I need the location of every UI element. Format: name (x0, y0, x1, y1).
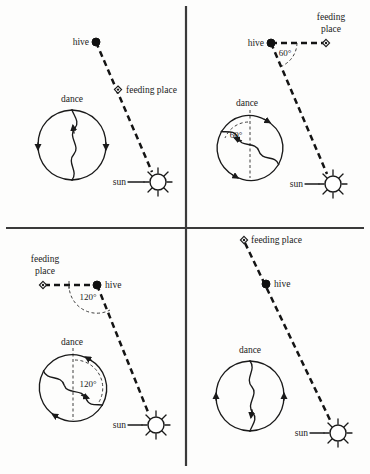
panel-bottom-right: feeding place hive sun (216, 235, 352, 447)
route-hive-to-sun-bottom-left (97, 285, 148, 412)
hive-marker (93, 281, 101, 289)
hive-marker (262, 280, 270, 288)
feeding-place-label: feeding place (126, 85, 177, 95)
hive-label: hive (73, 37, 89, 47)
angle-label-bottom-left: 120° (79, 292, 97, 302)
route-line-bottom-right (245, 243, 331, 422)
dance-label: dance (236, 98, 258, 108)
feeding-place-marker (114, 86, 121, 93)
feeding-place-label-line1: feeding (31, 254, 60, 264)
feeding-place-marker (39, 281, 46, 288)
feeding-place-label-line2: place (35, 266, 55, 276)
sun-label: sun (113, 420, 126, 430)
figure-canvas: hive feeding place sun (0, 0, 370, 474)
dance-figure-bottom-left: 120° (27, 342, 119, 433)
route-line-top-left (96, 42, 152, 172)
feeding-place-label-line1: feeding (317, 12, 346, 22)
sun-label: sun (290, 179, 303, 189)
dance-label: dance (61, 337, 83, 347)
feeding-place-label-line2: place (321, 24, 341, 34)
hive-label: hive (248, 38, 264, 48)
hive-label: hive (105, 280, 121, 290)
feeding-place-marker (322, 39, 329, 46)
dance-label: dance (239, 345, 261, 355)
hive-label: hive (274, 279, 290, 289)
dance-figure-top-right: 60° (205, 104, 294, 192)
angle-label-top-right: 60° (279, 48, 292, 58)
panel-dividers (6, 6, 364, 466)
panel-top-right: 60° hive feeding place (205, 12, 347, 198)
dance-label: dance (61, 94, 83, 104)
sun-label: sun (113, 177, 126, 187)
hive-marker (267, 39, 275, 47)
hive-marker (92, 38, 100, 46)
sun-icon (142, 411, 170, 439)
sun-label: sun (295, 428, 308, 438)
waggle-dance-figure: hive feeding place sun (0, 0, 370, 474)
dance-figure-bottom-right (216, 361, 284, 431)
sun-icon (319, 170, 347, 198)
feeding-place-label: feeding place (251, 235, 302, 245)
panel-top-left: hive feeding place sun (38, 37, 177, 196)
sun-icon (324, 419, 352, 447)
panel-bottom-left: 120° hive feeding place (27, 254, 170, 439)
sun-icon (144, 168, 172, 196)
dance-angle-label: 120° (79, 379, 97, 389)
feeding-place-marker (240, 236, 247, 243)
route-hive-to-sun-top-right (271, 43, 327, 174)
dance-figure-top-left (38, 110, 106, 180)
